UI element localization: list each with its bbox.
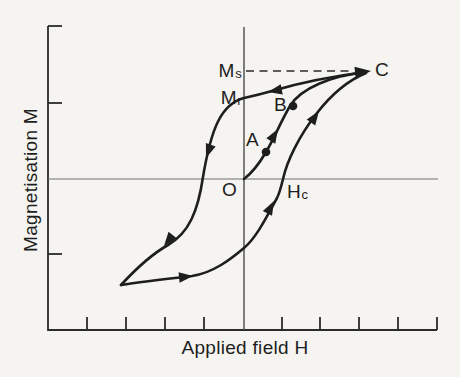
remanence-sub: r <box>237 93 242 108</box>
arrowhead-lower-branch-left <box>179 271 194 283</box>
arrowhead-at-point-c <box>354 65 371 79</box>
remanence-label: Mr <box>196 87 242 111</box>
saturation-base: M <box>219 60 235 81</box>
initial-magnetisation-curve <box>244 72 366 179</box>
left-axis-ticks <box>48 26 62 254</box>
coercive-base: H <box>287 181 301 202</box>
arrowhead-upper-branch-mid <box>201 143 216 160</box>
direction-arrowheads <box>160 65 372 283</box>
arrowhead-initial-curve <box>266 126 282 143</box>
point-a-label: A <box>246 129 259 151</box>
saturation-sub: s <box>235 66 242 81</box>
point-a-dot <box>262 148 271 157</box>
point-b-label: B <box>274 94 287 116</box>
y-axis-label: Magnetisation M <box>20 108 42 252</box>
origin-label: O <box>222 179 237 201</box>
remanence-base: M <box>221 87 237 108</box>
x-axis-label: Applied field H <box>125 337 365 359</box>
saturation-label: Ms <box>196 60 242 84</box>
coercive-sub: c <box>302 187 309 202</box>
point-c-label: C <box>375 59 389 81</box>
point-b-dot <box>289 102 298 111</box>
coercive-field-label: Hc <box>287 181 308 205</box>
bottom-axis-ticks <box>87 317 437 330</box>
hysteresis-figure: Ms Mr C B A O Hc Applied field H Magneti… <box>0 0 460 377</box>
